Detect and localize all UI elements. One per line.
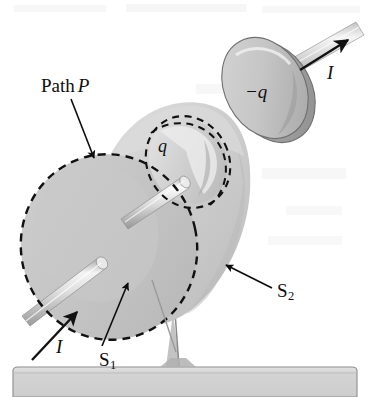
support-base [13, 367, 357, 397]
label-charge-positive: q [158, 137, 167, 155]
path-p-leader-arrow [71, 99, 94, 158]
label-surface-s1-subscript: 1 [110, 358, 117, 372]
label-charge-negative: −q [245, 82, 267, 101]
label-surface-s2: S2 [277, 281, 294, 303]
label-surface-s2-subscript: 2 [288, 289, 295, 303]
label-path-p: PathP [41, 76, 89, 95]
physics-figure-canvas: PathP −q q I I S1 S2 [0, 0, 374, 397]
label-current-top: I [327, 63, 333, 82]
label-path-p-word: Path [41, 75, 75, 96]
label-surface-s1-letter: S [99, 349, 110, 370]
label-path-p-symbol: P [75, 75, 90, 96]
s2-leader-arrow [226, 265, 272, 288]
label-surface-s1: S1 [99, 350, 116, 372]
label-current-bottom: I [56, 337, 62, 356]
label-surface-s2-letter: S [277, 280, 288, 301]
